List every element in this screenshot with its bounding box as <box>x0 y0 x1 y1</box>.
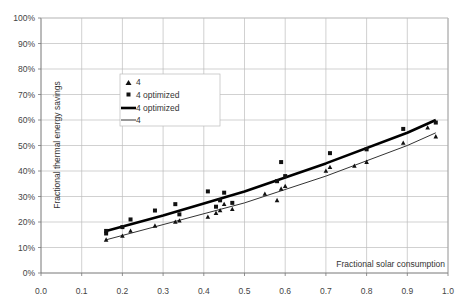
square-marker-icon <box>129 217 133 221</box>
square-marker-icon <box>153 209 157 213</box>
y-tick-label: 0% <box>23 268 36 278</box>
y-tick-label: 90% <box>18 39 35 49</box>
square-marker-icon <box>104 229 108 233</box>
square-marker-icon <box>365 147 369 151</box>
x-tick-label: 0.6 <box>279 286 291 296</box>
chart: 0%10%20%30%40%50%60%70%80%90%100% 0.00.1… <box>0 0 466 307</box>
x-tick-label: 0.2 <box>116 286 128 296</box>
y-tick-label: 70% <box>18 90 35 100</box>
x-axis-tick-labels: 0.00.10.20.30.40.50.60.70.80.91.0 <box>35 286 454 296</box>
square-marker-icon <box>434 121 438 125</box>
triangle-marker-icon <box>222 202 227 206</box>
y-tick-label: 20% <box>18 217 35 227</box>
legend: 4 4 optimized 4 optimized 4 <box>120 74 220 126</box>
x-tick-label: 1.0 <box>442 286 454 296</box>
triangle-marker-icon <box>153 223 158 227</box>
square-marker-icon <box>401 127 405 131</box>
legend-label-0: 4 <box>136 77 141 87</box>
x-tick-label: 0.0 <box>35 286 47 296</box>
square-marker-icon <box>214 205 218 209</box>
triangle-marker-icon <box>279 186 284 190</box>
triangle-marker-icon <box>433 134 438 138</box>
grid-lines <box>41 18 448 273</box>
triangle-marker-icon <box>275 198 280 202</box>
triangle-marker-icon <box>328 165 333 169</box>
y-tick-label: 30% <box>18 192 35 202</box>
x-tick-label: 0.7 <box>320 286 332 296</box>
legend-label-2: 4 optimized <box>136 103 180 113</box>
x-tick-label: 0.4 <box>198 286 210 296</box>
square-marker-icon <box>222 191 226 195</box>
y-tick-label: 60% <box>18 115 35 125</box>
square-marker-icon <box>279 160 283 164</box>
square-marker-icon <box>206 189 210 193</box>
y-tick-label: 100% <box>13 13 35 23</box>
y-tick-label: 80% <box>18 64 35 74</box>
y-axis-title: Fractional thermal energy savings <box>52 81 62 209</box>
trend-line-4 <box>106 133 436 240</box>
square-marker-icon <box>275 179 279 183</box>
square-marker-icon <box>177 212 181 216</box>
square-marker-icon <box>328 151 332 155</box>
legend-square-icon <box>127 93 131 97</box>
x-tick-label: 0.5 <box>239 286 251 296</box>
triangle-marker-icon <box>283 184 288 188</box>
x-tick-label: 0.3 <box>157 286 169 296</box>
triangle-marker-icon <box>230 207 235 211</box>
y-tick-label: 40% <box>18 166 35 176</box>
trend-line-optimized <box>106 120 436 231</box>
square-marker-icon <box>173 202 177 206</box>
y-tick-label: 50% <box>18 141 35 151</box>
y-tick-label: 10% <box>18 243 35 253</box>
triangle-marker-icon <box>206 214 211 218</box>
square-marker-icon <box>230 201 234 205</box>
x-tick-label: 0.9 <box>401 286 413 296</box>
x-tick-label: 0.1 <box>76 286 88 296</box>
legend-label-3: 4 <box>136 115 141 125</box>
square-marker-icon <box>120 225 124 229</box>
triangle-marker-icon <box>128 228 133 232</box>
legend-label-1: 4 optimized <box>136 90 180 100</box>
square-marker-icon <box>218 198 222 202</box>
x-axis-title: Fractional solar consumption <box>336 259 445 269</box>
square-marker-icon <box>283 174 287 178</box>
triangle-marker-icon <box>263 191 268 195</box>
axes <box>38 18 448 276</box>
x-tick-label: 0.8 <box>361 286 373 296</box>
triangle-marker-icon <box>401 140 406 144</box>
y-axis-tick-labels: 0%10%20%30%40%50%60%70%80%90%100% <box>13 13 35 278</box>
